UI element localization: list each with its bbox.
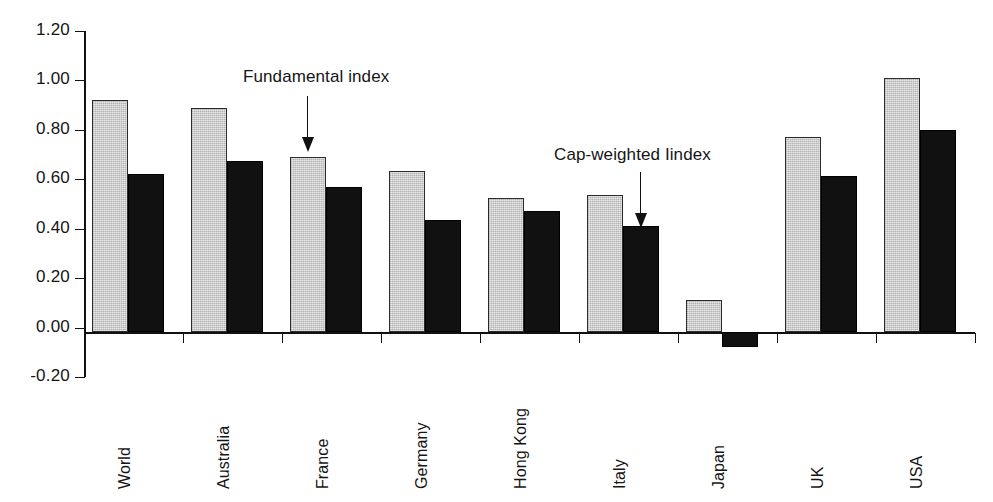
bar-germany-fundamental — [389, 171, 425, 332]
x-tick-mark — [876, 333, 877, 343]
x-tick-mark — [777, 333, 778, 343]
y-tick-mark — [75, 31, 85, 32]
bar-australia-cap-weighted — [227, 161, 263, 332]
y-tick-label: 1.20 — [0, 20, 70, 40]
annotation-label-fundamental-index: Fundamental index — [243, 67, 389, 87]
y-tick-label: 0.20 — [0, 267, 70, 287]
bar-germany-cap-weighted — [425, 220, 461, 332]
annotation-label-cap-weighted-index: Cap-weighted Iindex — [554, 145, 711, 165]
category-label-uk: UK — [809, 467, 827, 489]
bar-usa-cap-weighted — [920, 130, 956, 332]
y-tick-label: 0.00 — [0, 317, 70, 337]
y-tick-label: 1.00 — [0, 69, 70, 89]
category-label-australia: Australia — [215, 426, 233, 489]
y-tick-mark — [75, 377, 85, 378]
y-tick-mark — [75, 179, 85, 180]
y-tick-mark — [75, 80, 85, 81]
bar-chart: 1.201.000.800.600.400.200.00-0.20 WorldA… — [0, 0, 993, 502]
x-tick-mark — [579, 333, 580, 343]
x-tick-mark — [183, 333, 184, 343]
bar-italy-fundamental — [587, 195, 623, 332]
bar-usa-fundamental — [884, 78, 920, 332]
y-tick-label: 0.40 — [0, 218, 70, 238]
annotation-arrow-fundamental-index — [298, 96, 318, 152]
y-tick-label: 0.80 — [0, 119, 70, 139]
category-label-world: World — [116, 447, 134, 489]
category-label-hong-kong: Hong Kong — [512, 408, 530, 489]
annotation-arrow-cap-weighted-index — [631, 172, 651, 228]
bar-hong-kong-fundamental — [488, 198, 524, 332]
x-tick-mark — [678, 333, 679, 343]
bar-uk-cap-weighted — [821, 176, 857, 332]
bar-france-fundamental — [290, 157, 326, 332]
bar-hong-kong-cap-weighted — [524, 211, 560, 332]
y-axis-line — [84, 31, 86, 377]
category-label-italy: Italy — [611, 459, 629, 489]
x-axis-line — [84, 332, 975, 334]
bar-world-cap-weighted — [128, 174, 164, 332]
y-tick-label: -0.20 — [0, 366, 70, 386]
category-label-japan: Japan — [710, 445, 728, 489]
bar-uk-fundamental — [785, 137, 821, 332]
category-label-usa: USA — [908, 456, 926, 489]
category-label-germany: Germany — [413, 423, 431, 490]
x-tick-mark — [975, 333, 976, 343]
arrow-shaft — [640, 172, 642, 214]
bar-france-cap-weighted — [326, 187, 362, 332]
arrow-head-icon — [302, 137, 314, 152]
bar-world-fundamental — [92, 100, 128, 332]
x-tick-mark — [381, 333, 382, 343]
arrow-head-icon — [635, 213, 647, 228]
bar-australia-fundamental — [191, 108, 227, 332]
y-tick-mark — [75, 278, 85, 279]
y-tick-mark — [75, 130, 85, 131]
arrow-shaft — [307, 96, 309, 138]
x-tick-mark — [480, 333, 481, 343]
bar-japan-cap-weighted — [722, 332, 758, 347]
y-tick-mark — [75, 229, 85, 230]
category-label-france: France — [314, 439, 332, 489]
x-tick-mark — [282, 333, 283, 343]
y-tick-label: 0.60 — [0, 168, 70, 188]
bar-italy-cap-weighted — [623, 226, 659, 332]
bar-japan-fundamental — [686, 300, 722, 332]
y-tick-mark — [75, 328, 85, 329]
